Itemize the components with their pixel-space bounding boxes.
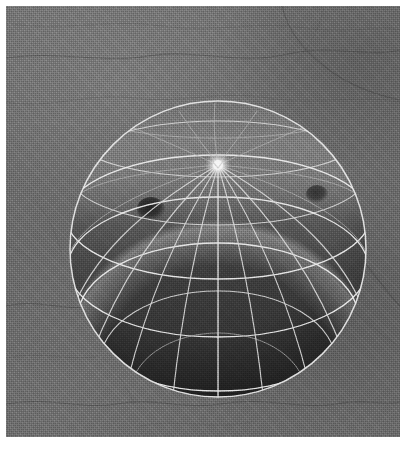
screenshot-root: uv-sphere sphere solid-shaded-with-wiref… xyxy=(0,0,418,457)
surface-spot-right xyxy=(306,185,328,203)
mesh-uv-sphere[interactable] xyxy=(65,95,367,395)
surface-spot-top-right xyxy=(286,100,314,116)
viewport-3d[interactable] xyxy=(6,6,400,437)
pole-specular-highlight xyxy=(205,152,231,178)
